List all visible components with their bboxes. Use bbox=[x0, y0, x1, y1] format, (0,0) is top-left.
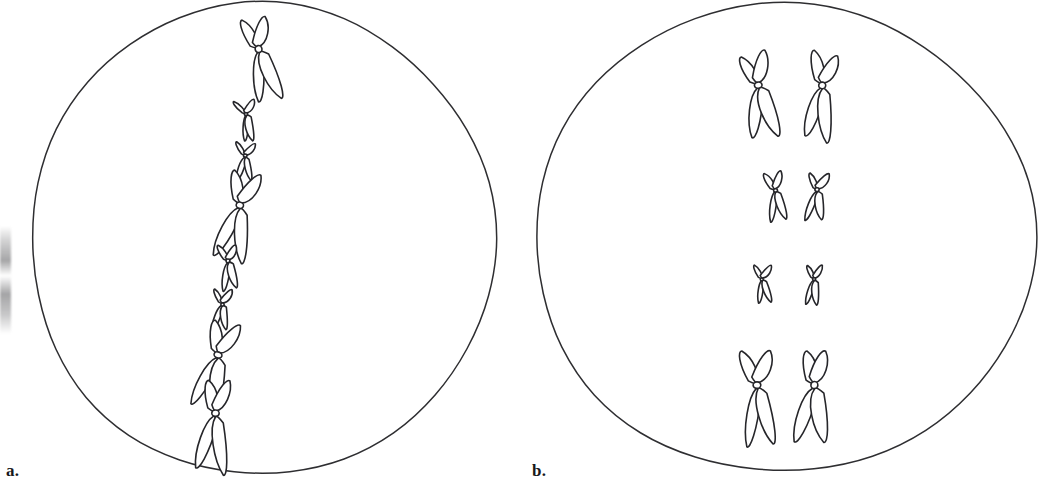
panel-a-drawing bbox=[0, 0, 526, 489]
panel-b-meiosis: b. bbox=[526, 0, 1052, 489]
centromere bbox=[226, 259, 230, 263]
centromere bbox=[221, 303, 224, 306]
centromere bbox=[754, 82, 762, 89]
centromere bbox=[760, 278, 763, 281]
centromere bbox=[818, 82, 826, 90]
panel-a-label: a. bbox=[6, 462, 19, 479]
centromere bbox=[815, 188, 820, 192]
centromere bbox=[753, 382, 761, 389]
centromere bbox=[773, 188, 777, 192]
panel-b-drawing bbox=[526, 0, 1052, 489]
centromere bbox=[811, 381, 818, 389]
panel-b-label: b. bbox=[532, 462, 546, 479]
centromere bbox=[211, 410, 219, 417]
centromere bbox=[255, 45, 263, 53]
panel-a-mitosis: a. bbox=[0, 0, 526, 489]
centromere bbox=[812, 278, 815, 281]
centromere bbox=[243, 154, 247, 157]
cell-membrane-b bbox=[537, 2, 1037, 470]
centromere bbox=[244, 112, 248, 115]
centromere bbox=[235, 201, 244, 209]
figure-root: a. b. bbox=[0, 0, 1052, 489]
